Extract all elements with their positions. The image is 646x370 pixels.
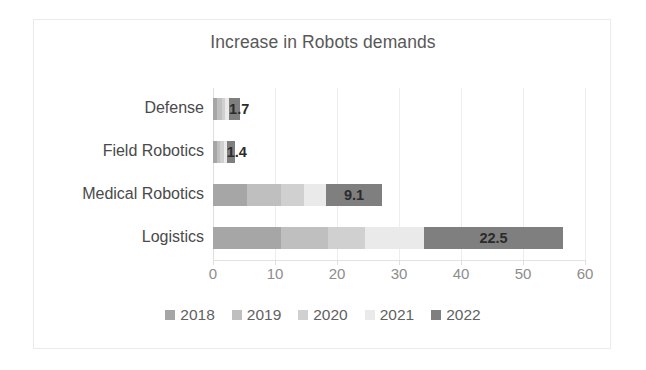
x-tick-label: 20: [317, 265, 357, 282]
legend-label: 2019: [247, 306, 281, 324]
bar-segment[interactable]: [281, 227, 328, 249]
x-tick-label: 30: [379, 265, 419, 282]
bar-row: 1.7: [213, 88, 585, 131]
bar-segment[interactable]: [213, 227, 281, 249]
legend-label: 2021: [380, 306, 414, 324]
bar-segment[interactable]: [304, 184, 326, 206]
legend-item[interactable]: 2020: [298, 306, 347, 324]
bar-row: 1.4: [213, 131, 585, 174]
legend-item[interactable]: 2021: [365, 306, 414, 324]
bar-value-label: 1.4: [227, 141, 236, 163]
category-axis-labels: DefenseField RoboticsMedical RoboticsLog…: [22, 88, 204, 260]
legend-swatch-icon: [298, 310, 308, 320]
legend-label: 2022: [446, 306, 480, 324]
bar-segment[interactable]: [247, 184, 281, 206]
x-tick-label: 60: [565, 265, 605, 282]
bar-row: 22.5: [213, 217, 585, 260]
x-tick-label: 0: [193, 265, 233, 282]
legend-swatch-icon: [165, 310, 175, 320]
bar-value-label: 22.5: [424, 227, 564, 249]
bar-value-label: 1.7: [229, 98, 240, 120]
legend-swatch-icon: [365, 310, 375, 320]
legend-swatch-icon: [232, 310, 242, 320]
bar-segment[interactable]: [328, 227, 365, 249]
legend-label: 2020: [313, 306, 347, 324]
category-label: Medical Robotics: [24, 185, 204, 203]
category-label: Defense: [24, 99, 204, 117]
legend-item[interactable]: 2022: [431, 306, 480, 324]
x-tick-label: 50: [503, 265, 543, 282]
category-label: Field Robotics: [24, 142, 204, 160]
x-axis-tick-labels: 0102030405060: [213, 265, 585, 289]
bar-segment[interactable]: [213, 184, 247, 206]
legend-item[interactable]: 2019: [232, 306, 281, 324]
bar-row: 9.1: [213, 174, 585, 217]
chart-legend: 20182019202020212022: [0, 306, 646, 324]
x-tick-label: 40: [441, 265, 481, 282]
chart-page: Increase in Robots demands DefenseField …: [0, 0, 646, 370]
legend-label: 2018: [180, 306, 214, 324]
bar-segment[interactable]: [365, 227, 424, 249]
chart-title: Increase in Robots demands: [0, 32, 646, 53]
plot-area: 1.71.49.122.5: [213, 88, 585, 260]
gridline-60: [585, 88, 586, 260]
legend-item[interactable]: 2018: [165, 306, 214, 324]
category-label: Logistics: [24, 228, 204, 246]
bar-segment[interactable]: [281, 184, 303, 206]
bar-value-label: 9.1: [326, 184, 382, 206]
legend-swatch-icon: [431, 310, 441, 320]
x-tick-label: 10: [255, 265, 295, 282]
